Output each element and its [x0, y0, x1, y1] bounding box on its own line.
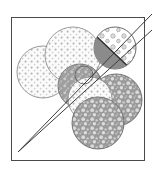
circle-bubble-bottom: [72, 97, 124, 149]
abstract-circles-diagram: [0, 0, 158, 172]
figure-canvas: [0, 0, 158, 172]
